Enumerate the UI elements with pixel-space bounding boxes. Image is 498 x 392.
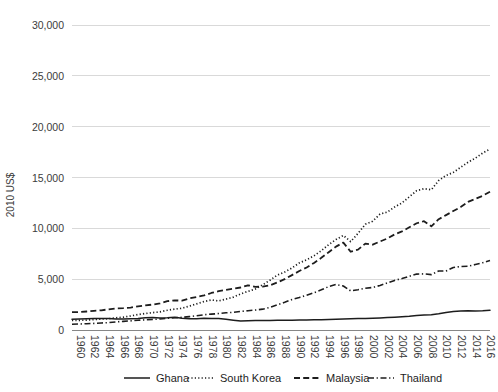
x-axis-tick-label: 2002 (383, 335, 395, 359)
x-axis-tick-label: 1968 (133, 335, 145, 359)
x-axis-tick-label: 1962 (89, 335, 101, 359)
series-line-south-korea (72, 149, 490, 320)
legend-label: Ghana (156, 372, 190, 384)
series-line-malaysia (72, 192, 490, 312)
y-axis-tick-label: 5,000 (38, 273, 64, 285)
x-axis-tick-label: 1960 (75, 335, 87, 359)
x-axis-tick-label: 2008 (427, 335, 439, 359)
x-axis-tick-label: 2010 (441, 335, 453, 359)
legend-label: Thailand (400, 372, 442, 384)
chart-legend: GhanaSouth KoreaMalaysiaThailand (124, 372, 442, 384)
x-axis-tick-label: 1996 (339, 335, 351, 359)
x-axis-tick-label: 2004 (397, 335, 409, 359)
chart-container: 05,00010,00015,00020,00025,00030,000 196… (0, 0, 498, 392)
y-axis-tick-label: 25,000 (32, 70, 64, 82)
series-line-ghana (72, 310, 490, 321)
legend-label: Malaysia (326, 372, 370, 384)
data-series-group (72, 149, 490, 324)
legend-label: South Korea (220, 372, 282, 384)
y-axis-tick-label: 20,000 (32, 121, 64, 133)
x-axis-tick-label: 1974 (177, 335, 189, 359)
y-axis-tick-label: 10,000 (32, 222, 64, 234)
y-axis-tick-label: 15,000 (32, 172, 64, 184)
x-axis-tick-label: 1988 (280, 335, 292, 359)
line-chart: 05,00010,00015,00020,00025,00030,000 196… (0, 0, 498, 392)
x-axis-tick-label: 2014 (471, 335, 483, 359)
x-axis-tick-label: 2000 (368, 335, 380, 359)
x-axis-tick-label: 1970 (148, 335, 160, 359)
x-axis-ticks: 1960196219641966196819701972197419761978… (75, 335, 498, 359)
x-axis-tick-label: 1982 (236, 335, 248, 359)
x-axis-tick-label: 1964 (104, 335, 116, 359)
x-axis-tick-label: 2012 (456, 335, 468, 359)
y-axis-title-text: 2010 US$ (5, 172, 16, 217)
x-axis-tick-label: 1972 (163, 335, 175, 359)
gridlines (72, 25, 490, 279)
x-axis-tick-label: 2006 (412, 335, 424, 359)
x-axis-tick-label: 1992 (309, 335, 321, 359)
x-axis-tick-label: 1980 (221, 335, 233, 359)
y-axis-tick-label: 30,000 (32, 19, 64, 31)
x-axis-tick-label: 1990 (295, 335, 307, 359)
x-axis-tick-label: 1994 (324, 335, 336, 359)
x-axis-tick-label: 1984 (251, 335, 263, 359)
y-axis-title: 2010 US$ (5, 172, 16, 217)
x-axis-tick-label: 1998 (353, 335, 365, 359)
x-axis-tick-label: 1966 (119, 335, 131, 359)
y-axis-ticks: 05,00010,00015,00020,00025,00030,000 (32, 19, 64, 336)
y-axis-tick-label: 0 (58, 324, 64, 336)
x-axis-tick-label: 2016 (485, 335, 497, 359)
x-axis-tick-label: 1986 (265, 335, 277, 359)
x-axis-tick-label: 1978 (207, 335, 219, 359)
x-axis-tick-label: 1976 (192, 335, 204, 359)
